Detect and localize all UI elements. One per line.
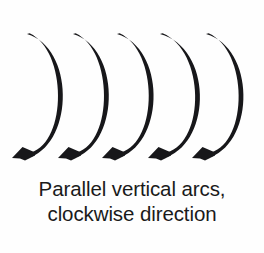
caption-block: Parallel vertical arcs, clockwise direct… xyxy=(0,176,264,226)
caption-line-2: clockwise direction xyxy=(0,201,264,226)
arrowhead xyxy=(58,147,81,161)
arc-diagram xyxy=(0,0,264,180)
caption-line-1: Parallel vertical arcs, xyxy=(0,176,264,201)
arc-stroke xyxy=(73,33,109,157)
arc-stroke xyxy=(117,33,154,157)
arrowhead xyxy=(102,147,125,161)
figure-root: Parallel vertical arcs, clockwise direct… xyxy=(0,0,264,253)
arc-stroke xyxy=(206,33,244,157)
arc-arrow-3 xyxy=(102,33,154,160)
arrowhead xyxy=(12,147,35,161)
arc-stroke xyxy=(160,33,200,157)
arrowhead xyxy=(192,147,215,161)
arrowhead xyxy=(148,147,171,161)
arc-group xyxy=(12,33,244,160)
arc-arrow-4 xyxy=(148,33,200,160)
arc-stroke xyxy=(27,33,63,157)
arc-arrow-1 xyxy=(12,33,63,160)
arc-arrow-2 xyxy=(58,33,109,160)
